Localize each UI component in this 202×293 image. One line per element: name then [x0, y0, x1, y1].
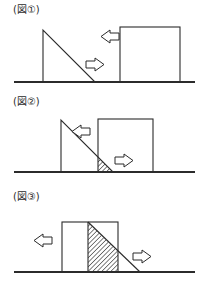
block-1 — [120, 27, 180, 82]
arrow-right-wedge-1 — [86, 58, 104, 71]
worksheet-sheet: (図①) (図②) — [0, 0, 202, 293]
arrow-left-block-1 — [101, 30, 119, 43]
figure-drawing-1 — [0, 0, 202, 95]
figure-panel-3: (図③) — [0, 187, 202, 293]
figure-drawing-2 — [0, 92, 202, 190]
arrow-right-wedge-3 — [133, 250, 151, 263]
incline-wedge-1 — [43, 30, 95, 82]
arrow-left-block-3 — [34, 234, 52, 247]
figure-drawing-3 — [0, 187, 202, 293]
arrow-left-wedge-2 — [72, 125, 90, 138]
arrow-right-block-2 — [115, 154, 133, 167]
figure-panel-2: (図②) — [0, 92, 202, 190]
figure-panel-1: (図①) — [0, 0, 202, 95]
